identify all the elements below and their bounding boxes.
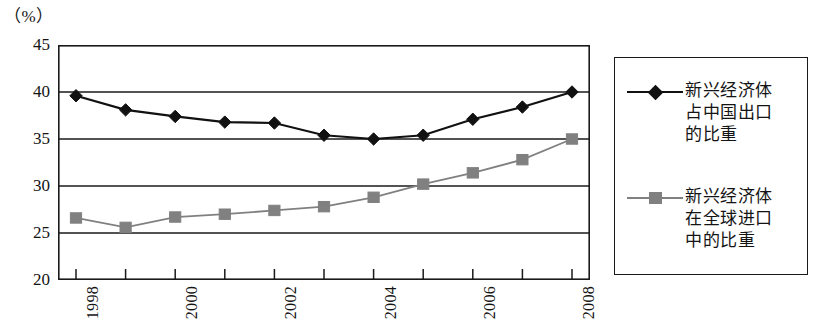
legend-entry-series2: 新兴经济体 在全球进口 中的比重	[625, 186, 773, 251]
legend-label-series2: 新兴经济体 在全球进口 中的比重	[685, 186, 773, 251]
x-tick-label-2002: 2002	[282, 286, 300, 319]
legend-symbol-series2	[649, 192, 662, 204]
x-tick-label-2004: 2004	[382, 286, 400, 319]
chart-figure: （%） 202530354045 19982000200220042006200…	[0, 0, 814, 335]
x-tick-label-2006: 2006	[481, 286, 499, 319]
x-tick-label-1998: 1998	[84, 286, 102, 319]
chart-legend: 新兴经济体 占中国出口 的比重 新兴经济体 在全球进口 中的比重	[614, 57, 808, 275]
legend-label-series1: 新兴经济体 占中国出口 的比重	[685, 80, 773, 145]
square-marker	[625, 187, 685, 209]
legend-symbol-series1	[647, 84, 663, 100]
legend-entry-series1: 新兴经济体 占中国出口 的比重	[625, 80, 773, 145]
x-tick-label-2000: 2000	[183, 286, 201, 319]
diamond-marker	[625, 81, 685, 103]
x-tick-label-2008: 2008	[580, 286, 598, 319]
